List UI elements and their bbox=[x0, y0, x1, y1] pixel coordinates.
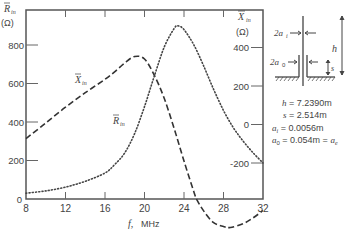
svg-text:R: R bbox=[3, 3, 10, 14]
right-tick-label: -200 bbox=[230, 158, 249, 169]
x-tick-label: 8 bbox=[23, 203, 29, 214]
x-axis-ticks: 8121620242832 bbox=[23, 10, 269, 214]
svg-text:in: in bbox=[246, 17, 251, 23]
svg-text:MHz: MHz bbox=[141, 219, 160, 229]
svg-text:ai = 0.0056m: ai = 0.0056m bbox=[272, 123, 323, 134]
svg-text:in: in bbox=[120, 121, 125, 127]
right-tick-label: 200 bbox=[233, 81, 249, 92]
x-tick-label: 16 bbox=[99, 203, 111, 214]
impedance-chart: 8121620242832 0200400600800 -2000200400 … bbox=[0, 0, 354, 242]
x-tick-label: 20 bbox=[139, 203, 151, 214]
r-in-curve-label: R in bbox=[112, 115, 125, 127]
left-tick-label: 800 bbox=[8, 40, 24, 51]
x-tick-label: 24 bbox=[178, 203, 190, 214]
svg-text:R: R bbox=[112, 115, 119, 126]
right-axis-label: X in (Ω) bbox=[236, 11, 251, 37]
svg-text:i: i bbox=[286, 33, 288, 39]
svg-text:h: h bbox=[332, 43, 337, 54]
svg-text:0: 0 bbox=[282, 62, 286, 68]
left-tick-label: 400 bbox=[8, 117, 24, 128]
svg-text:a0 = 0.054m = ae: a0 = 0.054m = ae bbox=[272, 135, 338, 146]
left-axis-ticks: 0200400600800 bbox=[8, 40, 38, 205]
left-tick-label: 200 bbox=[8, 155, 24, 166]
x-tick-label: 12 bbox=[60, 203, 72, 214]
x-in-curve-label: X in bbox=[74, 74, 87, 86]
svg-text:X: X bbox=[74, 74, 82, 85]
svg-text:s = 2.514m: s = 2.514m bbox=[283, 110, 327, 120]
svg-text:(Ω): (Ω) bbox=[236, 27, 249, 37]
right-axis-ticks: -2000200400 bbox=[230, 42, 263, 169]
svg-text:X: X bbox=[237, 11, 245, 22]
svg-text:in: in bbox=[11, 9, 16, 15]
svg-text:f,: f, bbox=[128, 218, 133, 229]
svg-text:s: s bbox=[331, 64, 334, 73]
svg-text:(Ω): (Ω) bbox=[1, 18, 14, 28]
antenna-parameters: h = 7.2390m s = 2.514m ai = 0.0056m a0 =… bbox=[272, 98, 338, 146]
left-tick-label: 0 bbox=[17, 194, 22, 205]
right-tick-label: 0 bbox=[244, 119, 249, 130]
svg-text:2a: 2a bbox=[274, 28, 284, 38]
svg-text:2a: 2a bbox=[270, 57, 280, 67]
x-tick-label: 32 bbox=[257, 203, 269, 214]
right-tick-label: 400 bbox=[233, 42, 249, 53]
left-axis-label: R in (Ω) bbox=[1, 3, 16, 28]
svg-text:in: in bbox=[82, 80, 87, 86]
x-tick-label: 28 bbox=[218, 203, 230, 214]
svg-text:h = 7.2390m: h = 7.2390m bbox=[282, 98, 332, 108]
left-tick-label: 600 bbox=[8, 78, 24, 89]
x-in-curve bbox=[26, 56, 263, 227]
x-axis-label: f, MHz bbox=[128, 218, 160, 229]
